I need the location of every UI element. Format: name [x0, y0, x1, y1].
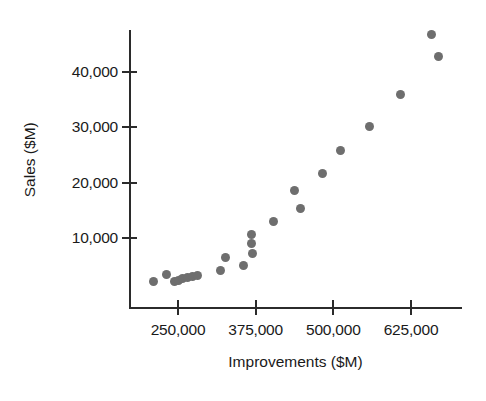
scatter-chart: 10,00020,00030,00040,000 250,000375,0005…	[0, 0, 486, 401]
data-point	[290, 186, 299, 195]
y-axis-tick-label: 40,000	[48, 64, 118, 80]
x-axis-tick	[177, 300, 179, 315]
data-point	[434, 52, 443, 61]
data-point	[193, 271, 202, 280]
data-point	[149, 277, 158, 286]
data-point	[162, 270, 171, 279]
x-axis-tick	[410, 300, 412, 315]
y-axis-tick-label: 10,000	[48, 230, 118, 246]
y-axis-tick-label: 20,000	[48, 175, 118, 191]
data-point	[239, 261, 248, 270]
data-point	[269, 217, 278, 226]
data-point	[365, 122, 374, 131]
y-axis-title: Sales ($M)	[22, 100, 38, 220]
data-point	[336, 146, 345, 155]
data-point	[216, 266, 225, 275]
data-point	[427, 30, 436, 39]
x-axis-title: Improvements ($M)	[129, 354, 462, 370]
data-point	[247, 239, 256, 248]
y-axis-tick	[122, 71, 137, 73]
y-axis-tick	[122, 126, 137, 128]
y-axis-tick	[122, 237, 137, 239]
x-axis-tick	[332, 300, 334, 315]
y-axis-tick-label: 30,000	[48, 119, 118, 135]
x-axis-tick	[255, 300, 257, 315]
data-point	[318, 169, 327, 178]
data-point	[296, 204, 305, 213]
data-point	[396, 90, 405, 99]
x-axis-tick-label: 625,000	[356, 322, 466, 338]
data-point	[248, 249, 257, 258]
data-point	[221, 253, 230, 262]
data-point	[247, 230, 256, 239]
y-axis-tick-labels: 10,00020,00030,00040,000	[44, 0, 118, 401]
y-axis-tick	[122, 182, 137, 184]
